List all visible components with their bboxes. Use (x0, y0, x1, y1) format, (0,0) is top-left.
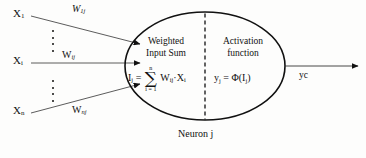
activation-function-heading-line1: Activation (210, 36, 276, 48)
activation-lhs-sub: j (219, 77, 221, 84)
activation-function-heading: Activation function (210, 36, 276, 59)
neuron-diagram: X1 Xi Xn W1j Wij Wnj Weighted Input Sum … (0, 0, 366, 158)
figure-caption: Neuron j (178, 128, 213, 139)
input-label-2: Xi (13, 55, 23, 67)
input-line-1 (31, 16, 140, 44)
phi-symbol: Φ (231, 72, 238, 83)
weighted-input-sum-heading-line2: Input Sum (133, 48, 199, 60)
activation-equals: = (223, 72, 229, 83)
activation-paren-close: ) (247, 72, 250, 83)
formula-equals: = (136, 72, 142, 83)
formula-term-x: X (177, 72, 184, 83)
weight-label-3: Wnj (72, 105, 87, 116)
output-label: yc (299, 70, 308, 80)
activation-function-heading-line2: function (210, 48, 276, 60)
vertical-ellipsis-upper (51, 30, 54, 52)
weighted-input-sum-heading-line1: Weighted (133, 36, 199, 48)
formula-term-x-sub: i (184, 76, 186, 83)
vertical-ellipsis-lower (51, 80, 54, 102)
activation-function-formula: yj = Φ(Ij) (214, 72, 251, 84)
input-label-1: X1 (13, 8, 24, 20)
summation-lower-limit: i = 1 (145, 86, 156, 92)
weighted-input-sum-heading: Weighted Input Sum (133, 36, 199, 59)
weight-label-1: W1j (72, 4, 85, 15)
weighted-input-sum-formula: Ij = n ∑ i = 1 Wij·Xi (128, 65, 186, 92)
sigma-icon: ∑ (145, 71, 157, 86)
formula-term-w: W (160, 72, 169, 83)
input-label-3: Xn (13, 105, 24, 117)
weight-label-2: Wij (62, 50, 75, 61)
formula-lhs-sub: j (131, 76, 133, 83)
summation-symbol-group: n ∑ i = 1 (145, 65, 157, 92)
